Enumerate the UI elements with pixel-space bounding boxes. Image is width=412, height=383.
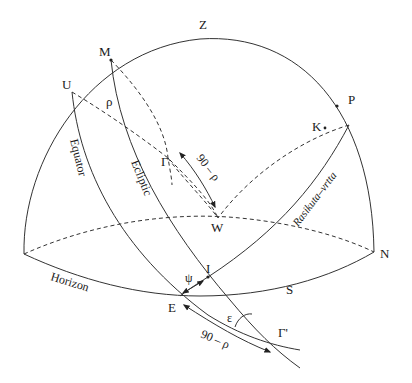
label-gamma: Γ — [161, 154, 169, 169]
label-psi: ψ — [185, 271, 193, 285]
label-M: M — [99, 44, 111, 59]
horizon-back — [24, 216, 374, 254]
point-P-dot — [335, 104, 338, 107]
label-arc-upper: 90 – ρ — [194, 151, 224, 183]
dashed-U-gamma — [72, 92, 218, 218]
label-P: P — [348, 92, 355, 107]
label-I: I — [206, 261, 210, 276]
label-W: W — [211, 220, 224, 235]
epsilon-arc — [235, 314, 252, 327]
label-rasikuta: Rasikuta–vrtta — [289, 169, 338, 229]
label-gamma-prime: Γ' — [278, 325, 288, 340]
label-ecliptic: Ecliptic — [128, 158, 155, 198]
label-E: E — [168, 300, 176, 315]
label-U: U — [62, 77, 72, 92]
ecliptic-curve — [111, 60, 300, 368]
label-S: S — [286, 282, 293, 297]
label-arc-lower: 90 – ρ — [199, 327, 232, 352]
label-Z: Z — [199, 17, 207, 32]
label-K: K — [312, 119, 322, 134]
label-epsilon: ε — [227, 311, 232, 325]
label-equator: Equator — [67, 137, 90, 177]
point-K-dot — [324, 127, 327, 130]
label-rho: ρ — [106, 94, 113, 109]
label-N: N — [380, 246, 390, 261]
celestial-sphere-diagram: Z M U P K ρ Γ W I E Γ' N S ψ ε Equator E… — [0, 0, 412, 383]
